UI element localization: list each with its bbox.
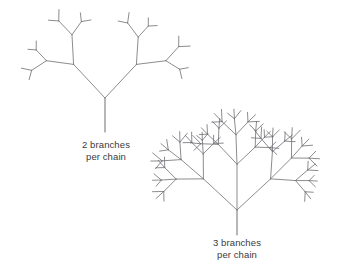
tree-drawing-canvas <box>0 0 353 266</box>
caption-right-line2: per chain <box>193 249 281 261</box>
caption-right: 3 branches per chain <box>193 237 281 260</box>
caption-right-line1: 3 branches <box>193 237 281 249</box>
caption-left: 2 branches per chain <box>62 139 150 162</box>
tree-right-branches <box>151 109 320 210</box>
caption-left-line2: per chain <box>62 151 150 163</box>
branching-chain-diagram: 2 branches per chain 3 branches per chai… <box>0 0 353 266</box>
caption-left-line1: 2 branches <box>62 139 150 151</box>
tree-right <box>151 109 320 235</box>
tree-left <box>21 10 190 132</box>
tree-left-branches <box>21 10 190 98</box>
